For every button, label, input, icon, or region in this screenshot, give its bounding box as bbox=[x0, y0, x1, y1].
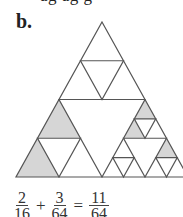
numerator: 11 bbox=[89, 190, 108, 206]
denominator: 64 bbox=[52, 206, 68, 217]
fraction-result: 11 64 bbox=[89, 190, 108, 217]
plus-operator: + bbox=[36, 196, 46, 216]
fraction-2: 3 64 bbox=[52, 190, 68, 217]
fraction-1: 2 16 bbox=[14, 190, 30, 217]
numerator: 2 bbox=[16, 190, 28, 206]
sierpinski-triangle-figure bbox=[0, 0, 183, 217]
equals-operator: = bbox=[74, 196, 84, 216]
denominator: 16 bbox=[14, 206, 30, 217]
numerator: 3 bbox=[54, 190, 66, 206]
equation: 2 16 + 3 64 = 11 64 bbox=[14, 190, 109, 217]
denominator: 64 bbox=[91, 206, 107, 217]
